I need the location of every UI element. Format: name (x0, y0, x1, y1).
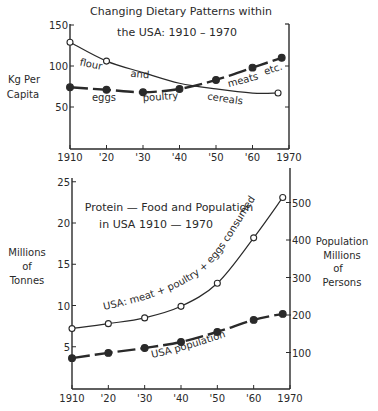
y2-axis-label: Population Millions of Persons (316, 236, 369, 288)
data-point (251, 235, 257, 241)
series-annotation: meats (226, 71, 259, 90)
series: flourandcerealseggspoultrymeatsetc. (67, 39, 286, 106)
series-annotation: cereals (207, 91, 244, 107)
x-tick-label: '30 (135, 152, 150, 163)
data-point (67, 39, 73, 45)
data-point (67, 84, 74, 91)
protein-population-chart: Protein — Food and Population in USA 191… (8, 168, 368, 404)
data-point (142, 315, 148, 321)
y-tick-label: 100 (49, 61, 68, 72)
svg-text:Millions: Millions (8, 247, 45, 258)
svg-text:Kg Per: Kg Per (8, 74, 41, 85)
series-annotation: eggs (92, 92, 116, 103)
x-tick-label: 1910 (57, 152, 82, 163)
x-tick-label: '60 (245, 152, 260, 163)
x-tick-label: '50 (210, 393, 225, 404)
y-tick-label: 15 (57, 259, 70, 270)
data-point (279, 310, 286, 317)
y2-tick-label: 200 (292, 310, 311, 321)
x-tick-label: '20 (99, 152, 114, 163)
y2-tick-label: 100 (292, 348, 311, 359)
y2-tick-label: 300 (292, 273, 311, 284)
y-tick-label: 50 (55, 102, 68, 113)
data-point (105, 349, 112, 356)
chart-title-line-2: the USA: 1910 – 1970 (117, 26, 237, 39)
svg-text:Persons: Persons (323, 277, 362, 288)
series: USA: meat + poultry + eggs consumedUSA p… (69, 188, 287, 362)
svg-text:Tonnes: Tonnes (9, 275, 45, 286)
series-usa-meat-poultry-eggs-consumed (69, 194, 286, 331)
data-point (178, 303, 184, 309)
data-point (250, 316, 257, 323)
x-tick-label: 1970 (277, 393, 302, 404)
y-tick-label: 20 (57, 218, 70, 229)
y2-tick-label: 400 (292, 235, 311, 246)
svg-text:Millions: Millions (323, 250, 360, 261)
series-label-population: USA population (150, 328, 227, 360)
x-tick-label: '40 (172, 152, 187, 163)
x-tick-label: '60 (246, 393, 261, 404)
dietary-patterns-chart: Changing Dietary Patterns within the USA… (7, 5, 302, 163)
data-point (105, 321, 111, 327)
chart-title-line-1: Changing Dietary Patterns within (90, 5, 272, 18)
y-tick-label: 25 (57, 177, 70, 188)
y2-tick-label: 500 (292, 198, 311, 209)
data-point (214, 280, 220, 286)
y-axis-label: Millions of Tonnes (8, 247, 45, 286)
data-point (141, 345, 148, 352)
data-point (213, 77, 220, 84)
x-tick-label: '40 (173, 393, 188, 404)
svg-text:of: of (22, 261, 32, 272)
y-axis-label: Kg Per Capita (7, 74, 41, 100)
x-tick-label: 1910 (59, 393, 84, 404)
x-tick-label: '20 (101, 393, 116, 404)
svg-text:Capita: Capita (7, 89, 39, 100)
chart-title-line-1: Protein — Food and Population (85, 201, 253, 214)
data-point (69, 355, 76, 362)
svg-text:of: of (333, 263, 343, 274)
chart-title-line-2: in USA 1910 — 1970 (99, 218, 213, 231)
y-tick-label: 5 (64, 342, 70, 353)
x-tick-label: '30 (137, 393, 152, 404)
x-tick-label: '50 (208, 152, 223, 163)
data-point (104, 58, 110, 64)
x-tick-label: 1970 (276, 152, 301, 163)
y-tick-label: 150 (49, 20, 68, 31)
data-point (280, 194, 286, 200)
series-annotation: poultry (142, 90, 178, 103)
figure: Changing Dietary Patterns within the USA… (0, 0, 378, 411)
y-tick-label: 10 (57, 301, 70, 312)
series-annotation: and (130, 68, 150, 81)
data-point (69, 326, 75, 332)
svg-text:Population: Population (316, 236, 369, 247)
data-point (275, 90, 281, 96)
